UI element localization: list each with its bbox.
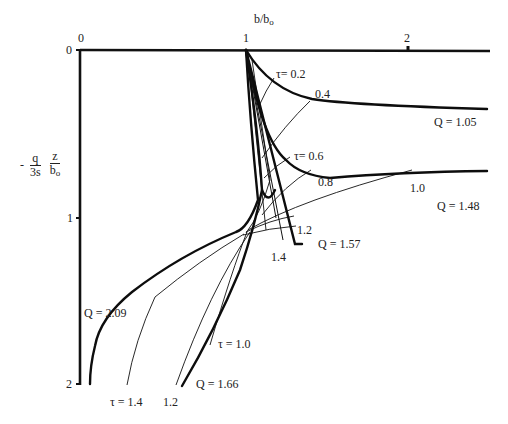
tau-label-1.0-right: 1.0 (410, 182, 425, 194)
axes (76, 46, 490, 385)
y-axis-title: - q 3s z bo (20, 150, 63, 180)
tau-label-1.4-right: 1.4 (271, 251, 286, 263)
tau-label-0.8: 0.8 (318, 176, 333, 188)
x-axis-title-sub: o (269, 17, 274, 27)
q-label-1.57: Q = 1.57 (318, 238, 360, 250)
tau-1.0-bottom-contour (210, 232, 247, 345)
x-tick-label-2: 2 (404, 32, 410, 44)
tau-label-0.2: τ= 0.2 (276, 68, 306, 80)
tau-label-1.2-right: 1.2 (297, 224, 312, 236)
q-label-1.48: Q = 1.48 (437, 200, 479, 212)
tau-label-0.6: τ= 0.6 (294, 150, 324, 162)
x-tick-label-0: 0 (78, 32, 84, 44)
q-label-1.05: Q = 1.05 (434, 116, 476, 128)
frac-z-numerator: z (50, 150, 61, 164)
q-curves (90, 50, 487, 386)
frac-3s-denominator: 3s (30, 166, 41, 179)
x-axis-title: b/bo (254, 13, 274, 28)
y-tick-label-0: 0 (66, 44, 72, 56)
y-axis-title-sign: - (20, 158, 24, 172)
y-axis-frac-q3s: q 3s (30, 152, 41, 179)
y-tick-label-1: 1 (67, 212, 73, 224)
frac-q-numerator: q (30, 152, 41, 166)
x-tick-label-1: 1 (243, 32, 249, 44)
tau-label-1.0-bottom: τ = 1.0 (218, 338, 251, 350)
tau-label-0.4: 0.4 (315, 88, 330, 100)
tau-label-1.4-bottom: τ = 1.4 (110, 396, 143, 408)
y-axis-frac-zb0: z bo (50, 150, 61, 180)
tau-contours (127, 50, 412, 385)
q-2.09-curve (90, 50, 258, 384)
tau-label-1.2-bottom: 1.2 (163, 396, 178, 408)
x-axis-title-main: b/b (254, 12, 269, 26)
y-tick-label-2: 2 (66, 378, 72, 390)
tau-0.2-contour (259, 78, 274, 106)
q-label-2.09: Q = 2.09 (84, 307, 126, 319)
x-axis-line (80, 50, 490, 51)
diagram-canvas (0, 0, 508, 424)
frac-b0-denominator: bo (50, 164, 61, 180)
q-label-1.66: Q = 1.66 (196, 378, 238, 390)
frac-b-sub: o (56, 168, 61, 178)
